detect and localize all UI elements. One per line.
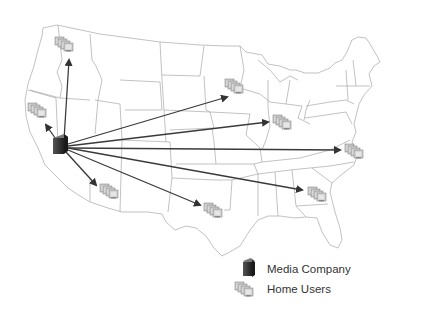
computer-cluster-icon bbox=[55, 37, 73, 52]
us-map-diagram bbox=[0, 0, 439, 316]
computer-cluster-icon bbox=[225, 79, 243, 94]
computer-cluster-icon bbox=[100, 184, 118, 199]
computer-cluster-icon bbox=[204, 203, 222, 218]
computer-cluster-icon bbox=[308, 187, 326, 202]
computer-cluster-icon bbox=[273, 115, 291, 130]
legend-computer-cluster-icon bbox=[235, 282, 253, 297]
home-user-clusters bbox=[28, 37, 363, 218]
legend-home-users-label: Home Users bbox=[267, 283, 331, 295]
computer-cluster-icon bbox=[345, 144, 363, 159]
legend-media-company-label: Media Company bbox=[267, 263, 351, 275]
legend-server-tower-icon bbox=[243, 258, 255, 277]
computer-cluster-icon bbox=[28, 103, 46, 118]
